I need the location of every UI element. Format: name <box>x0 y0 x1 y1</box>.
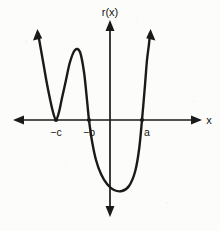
curve-arrow-upper-left-icon <box>33 29 42 41</box>
root-marker-dot <box>140 118 144 122</box>
graph-figure: r(x) x −c −b a <box>0 0 220 231</box>
y-axis-arrow-up-icon <box>106 20 115 31</box>
x-axis-arrow-left-icon <box>13 116 24 125</box>
tick-label-a: a <box>144 126 150 138</box>
x-axis-arrow-right-icon <box>191 116 202 125</box>
tick-label-neg-c: −c <box>50 126 61 138</box>
function-curve-group <box>33 29 155 191</box>
curve-arrow-upper-right-icon <box>146 29 155 41</box>
root-marker-dot <box>54 118 58 122</box>
x-axis-label: x <box>206 114 212 126</box>
y-axis-label: r(x) <box>102 6 119 18</box>
x-axis <box>13 116 202 125</box>
plot-canvas: r(x) x −c −b a <box>0 0 220 231</box>
tick-label-neg-b: −b <box>83 126 95 138</box>
function-curve <box>38 33 150 191</box>
root-marker-dot <box>87 118 91 122</box>
y-axis-arrow-down-icon <box>106 206 115 217</box>
